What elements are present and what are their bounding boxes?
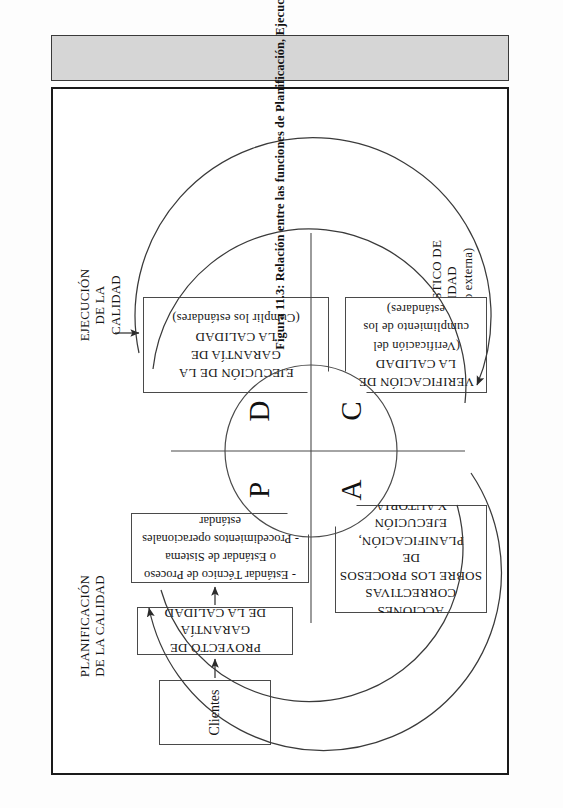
box-acciones-line1: ACCIONES CORRECTIVAS [365, 587, 456, 620]
figure-caption-bar: Figura 11.3: Relación entre las funcione… [51, 35, 509, 81]
box-proyecto-line2: DE LA CALIDAD [164, 606, 266, 621]
box-acciones-line3: PLANIFICACIÓN, [358, 534, 464, 549]
label-ejecucion-line2: DE LA [92, 286, 107, 325]
label-planificacion-de-la-calidad: PLANIFICACIÓN DE LA CALIDAD [77, 531, 108, 721]
box-clientes-label: Clientes [206, 690, 223, 736]
pdca-letter-p: P [243, 482, 275, 498]
box-acciones-line4: EJECUCIÓN [374, 517, 447, 532]
label-planificacion-line1: PLANIFICACIÓN [77, 575, 92, 677]
label-ejecucion-line3: CALIDAD [107, 275, 122, 335]
figure-caption-text: Figura 11.3: Relación entre las funcione… [272, 0, 287, 350]
box-verificacion-line1: VERIFICACIÓN DE [358, 375, 473, 390]
box-verificacion-calidad[interactable]: VERIFICACIÓN DE LA CALIDAD (Verificación… [345, 297, 487, 393]
box-estandares-line4: estándar [199, 514, 241, 528]
box-proyecto-garantia-calidad[interactable]: PROYECTO DE GARANTÍA DE LA CALIDAD [137, 607, 293, 655]
pdca-letter-d: D [243, 401, 275, 422]
box-verificacion-note1: (Verificación del [372, 339, 459, 353]
box-acciones-line5: Y AUTORIA [375, 499, 447, 514]
box-proyecto-line1: PROYECTO DE GARANTÍA [169, 624, 260, 657]
box-ejecucion-garantia-line3: LA CALIDAD [195, 329, 275, 344]
box-acciones-line2: SOBRE LOS PROCESOS DE [339, 552, 481, 585]
box-estandares-line3: - Procedimientos operacionales [141, 532, 298, 546]
box-verificacion-note2: cumplimiento de los estándares) [363, 302, 469, 335]
pdca-letter-c: C [335, 401, 367, 420]
box-clientes[interactable]: Clientes [159, 680, 271, 745]
box-ejecucion-garantia-calidad[interactable]: EJECUCIÓN DE LA GARANTÍA DE LA CALIDAD (… [143, 297, 329, 393]
label-ejecucion-line1: EJECUCIÓN [77, 269, 92, 342]
rotated-figure-wrapper: PLANIFICACIÓN DE LA CALIDAD EJECUCIÓN DE… [51, 33, 513, 775]
box-ejecucion-garantia-line1: EJECUCIÓN DE LA [178, 366, 293, 381]
label-planificacion-line2: DE LA CALIDAD [92, 575, 107, 677]
figure-page: PLANIFICACIÓN DE LA CALIDAD EJECUCIÓN DE… [0, 0, 563, 808]
label-ejecucion-de-la-calidad: EJECUCIÓN DE LA CALIDAD [77, 245, 123, 365]
box-estandares-line1: - Estándar Técnico de Proceso [144, 568, 296, 582]
box-estandares[interactable]: - Estándar Técnico de Proceso o Estándar… [131, 513, 309, 583]
box-estandares-line2: o Estándar de Sistema [164, 550, 275, 564]
box-ejecucion-garantia-line2: GARANTÍA DE [191, 347, 281, 362]
box-acciones-correctivas[interactable]: ACCIONES CORRECTIVAS SOBRE LOS PROCESOS … [335, 505, 487, 613]
pdca-letter-a: A [335, 479, 367, 500]
box-verificacion-line2: LA CALIDAD [375, 357, 455, 372]
